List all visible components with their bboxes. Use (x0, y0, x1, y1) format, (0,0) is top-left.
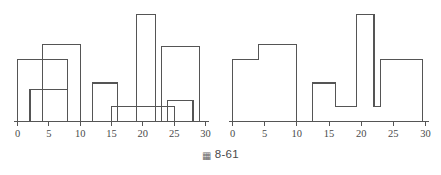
x-axis-tick-label: 10 (75, 128, 86, 139)
x-axis-tick-label: 25 (388, 128, 399, 139)
x-axis-tick-label: 10 (292, 128, 303, 139)
histogram-bin-outline (93, 83, 118, 122)
x-axis-tick-label: 25 (169, 128, 180, 139)
histogram-bin-outline (112, 107, 175, 122)
x-axis-tick-label: 30 (420, 128, 431, 139)
left-histogram-plot: 051015202530 (0, 0, 222, 145)
right-histogram-panel: 051015202530 (222, 0, 441, 145)
histogram-bin-outline (43, 44, 81, 121)
figure-8-61: 051015202530 051015202530 ▦8-61 (0, 0, 441, 175)
histogram-bin-outline (137, 15, 156, 122)
histogram-step-outline (233, 15, 423, 122)
x-axis-tick-label: 20 (138, 128, 149, 139)
x-axis-tick-label: 15 (106, 128, 117, 139)
x-axis-tick-label: 30 (200, 128, 211, 139)
figure-caption: ▦8-61 (0, 148, 441, 161)
x-axis-tick-label: 20 (356, 128, 367, 139)
x-axis-tick-label: 5 (46, 128, 51, 139)
histogram-bin-outline (30, 89, 68, 121)
caption-number: 8-61 (215, 148, 239, 160)
right-histogram-plot: 051015202530 (222, 0, 441, 145)
x-axis-tick-label: 5 (262, 128, 267, 139)
caption-mark-icon: ▦ (202, 150, 212, 161)
x-axis-tick-label: 0 (15, 128, 20, 139)
left-histogram-panel: 051015202530 (0, 0, 222, 145)
histogram-bin-outline (162, 47, 200, 122)
x-axis-tick-label: 15 (324, 128, 335, 139)
histogram-bin-outline (168, 100, 193, 121)
x-axis-tick-label: 0 (230, 128, 235, 139)
